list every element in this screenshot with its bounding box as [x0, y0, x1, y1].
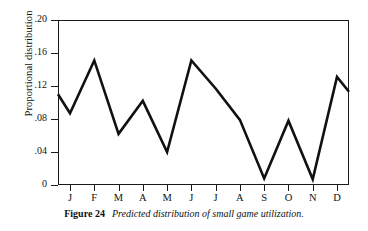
x-tick-label: O — [278, 192, 298, 203]
y-tick-mark — [51, 86, 58, 87]
x-tick-mark — [94, 185, 95, 191]
x-tick-mark — [191, 185, 192, 191]
y-tick-label: .04 — [35, 145, 48, 156]
y-tick-mark — [51, 185, 58, 186]
x-tick-label: F — [84, 192, 104, 203]
x-tick-mark — [337, 185, 338, 191]
x-tick-mark — [216, 185, 217, 191]
series-polyline — [58, 60, 349, 179]
line-series — [58, 20, 349, 185]
x-tick-mark — [240, 185, 241, 191]
y-tick-label: .16 — [35, 46, 48, 57]
x-tick-label: S — [254, 192, 274, 203]
y-tick-label: .08 — [35, 112, 48, 123]
x-tick-label: N — [303, 192, 323, 203]
x-tick-mark — [119, 185, 120, 191]
x-tick-label: J — [206, 192, 226, 203]
x-tick-mark — [143, 185, 144, 191]
x-tick-mark — [313, 185, 314, 191]
x-tick-label: A — [133, 192, 153, 203]
figure-container: Proportional distribution 0.04.08.12.16.… — [0, 0, 368, 231]
x-tick-label: A — [230, 192, 250, 203]
y-tick-label: .20 — [35, 13, 48, 24]
y-tick-mark — [51, 53, 58, 54]
x-tick-label: M — [157, 192, 177, 203]
y-tick-label: .12 — [35, 79, 48, 90]
figure-caption: Figure 24Predicted distribution of small… — [0, 208, 368, 219]
x-tick-mark — [264, 185, 265, 191]
y-tick-mark — [51, 152, 58, 153]
x-tick-label: D — [327, 192, 347, 203]
y-tick-label: 0 — [42, 178, 47, 189]
x-tick-mark — [167, 185, 168, 191]
caption-label: Figure 24 — [64, 208, 105, 219]
x-tick-mark — [288, 185, 289, 191]
y-axis-title: Proportional distribution — [23, 0, 34, 144]
x-tick-mark — [70, 185, 71, 191]
caption-text: Predicted distribution of small game uti… — [112, 208, 304, 219]
x-tick-label: J — [60, 192, 80, 203]
x-tick-label: M — [109, 192, 129, 203]
y-tick-mark — [51, 20, 58, 21]
x-tick-label: J — [181, 192, 201, 203]
y-tick-mark — [51, 119, 58, 120]
